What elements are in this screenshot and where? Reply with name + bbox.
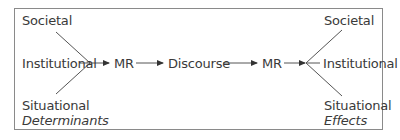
right-situational-label: Situational <box>324 98 391 113</box>
left-societal-label: Societal <box>22 13 72 28</box>
left-situational-label: Situational <box>22 98 89 113</box>
discourse-node: Discourse <box>168 56 230 71</box>
right-societal-label: Societal <box>324 13 374 28</box>
mr-node-1: MR <box>114 56 134 71</box>
right-institutional-label: Institutional <box>323 56 398 71</box>
mr-node-2: MR <box>262 56 282 71</box>
determinants-caption: Determinants <box>22 113 109 128</box>
effects-caption: Effects <box>324 113 367 128</box>
left-institutional-label: Institutional <box>22 56 97 71</box>
